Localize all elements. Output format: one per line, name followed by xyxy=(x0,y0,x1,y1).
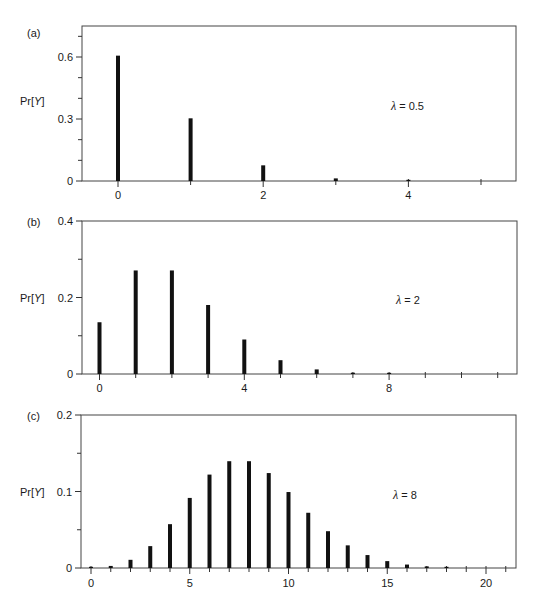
probability-bar xyxy=(366,555,370,568)
x-tick-label: 4 xyxy=(405,189,411,201)
probability-bar xyxy=(208,475,212,568)
probability-bar xyxy=(445,567,449,568)
probability-bar xyxy=(387,373,391,374)
probability-bar xyxy=(326,531,330,568)
probability-bar xyxy=(170,270,174,374)
probability-bar xyxy=(168,524,172,568)
probability-bar xyxy=(134,270,138,374)
y-tick-label: 0 xyxy=(66,562,72,574)
y-axis-label: Pr[Y] xyxy=(20,95,44,107)
x-tick-label: 0 xyxy=(88,577,94,589)
probability-bar xyxy=(385,561,389,568)
probability-bar xyxy=(405,565,409,568)
y-tick-label: 0 xyxy=(67,175,73,187)
probability-bar xyxy=(116,56,120,181)
panel-label: (b) xyxy=(27,216,40,228)
probability-bar xyxy=(189,118,193,181)
x-tick-label: 15 xyxy=(381,577,393,589)
y-tick-label: 0 xyxy=(67,368,73,380)
y-tick-label: 0.2 xyxy=(57,409,72,421)
chart-panel-a: 00.30.6024(a)Pr[Y]λ= 0.5 xyxy=(20,26,516,201)
probability-bar xyxy=(109,566,113,568)
probability-bar xyxy=(334,178,338,181)
probability-bar xyxy=(129,560,133,568)
probability-bar xyxy=(188,498,192,568)
lambda-annotation: λ= 8 xyxy=(392,488,417,502)
probability-bar xyxy=(247,461,251,568)
x-tick-label: 5 xyxy=(187,577,193,589)
probability-bar xyxy=(267,473,271,568)
panel-label: (c) xyxy=(27,410,40,422)
y-tick-label: 0.6 xyxy=(58,51,73,63)
probability-bar xyxy=(306,513,310,568)
x-tick-label: 8 xyxy=(386,382,392,394)
plot-frame xyxy=(82,26,516,181)
lambda-annotation: λ= 0.5 xyxy=(390,99,424,113)
probability-bar xyxy=(98,322,102,374)
y-tick-label: 0.2 xyxy=(58,292,73,304)
x-tick-label: 20 xyxy=(480,577,492,589)
probability-bar xyxy=(242,339,246,374)
x-tick-label: 0 xyxy=(115,189,121,201)
probability-bar xyxy=(425,566,429,568)
probability-bar xyxy=(406,180,410,181)
x-tick-label: 2 xyxy=(260,189,266,201)
panel-label: (a) xyxy=(27,27,40,39)
probability-bar xyxy=(206,305,210,374)
x-tick-label: 0 xyxy=(96,382,102,394)
probability-bar xyxy=(346,545,350,568)
figure-canvas: 00.30.6024(a)Pr[Y]λ= 0.500.20.4048(b)Pr[… xyxy=(0,0,538,603)
probability-bar xyxy=(261,165,265,181)
y-tick-label: 0.1 xyxy=(57,486,72,498)
probability-bar xyxy=(351,373,355,374)
probability-bar xyxy=(287,492,291,568)
y-tick-label: 0.4 xyxy=(58,215,73,227)
poisson-distribution-figure: 00.30.6024(a)Pr[Y]λ= 0.500.20.4048(b)Pr[… xyxy=(0,0,538,603)
y-axis-label: Pr[Y] xyxy=(20,292,44,304)
y-axis-label: Pr[Y] xyxy=(20,486,44,498)
x-tick-label: 4 xyxy=(241,382,247,394)
x-tick-label: 10 xyxy=(282,577,294,589)
probability-bar xyxy=(227,461,231,568)
lambda-annotation: λ= 2 xyxy=(395,293,420,307)
plot-frame xyxy=(82,221,517,374)
probability-bar xyxy=(89,567,93,568)
probability-bar xyxy=(279,360,283,374)
plot-frame xyxy=(81,415,516,568)
y-tick-label: 0.3 xyxy=(58,113,73,125)
probability-bar xyxy=(148,546,152,568)
chart-panel-c: 00.10.205101520(c)Pr[Y]λ= 8 xyxy=(20,409,516,589)
chart-panel-b: 00.20.4048(b)Pr[Y]λ= 2 xyxy=(20,215,517,394)
probability-bar xyxy=(315,369,319,374)
